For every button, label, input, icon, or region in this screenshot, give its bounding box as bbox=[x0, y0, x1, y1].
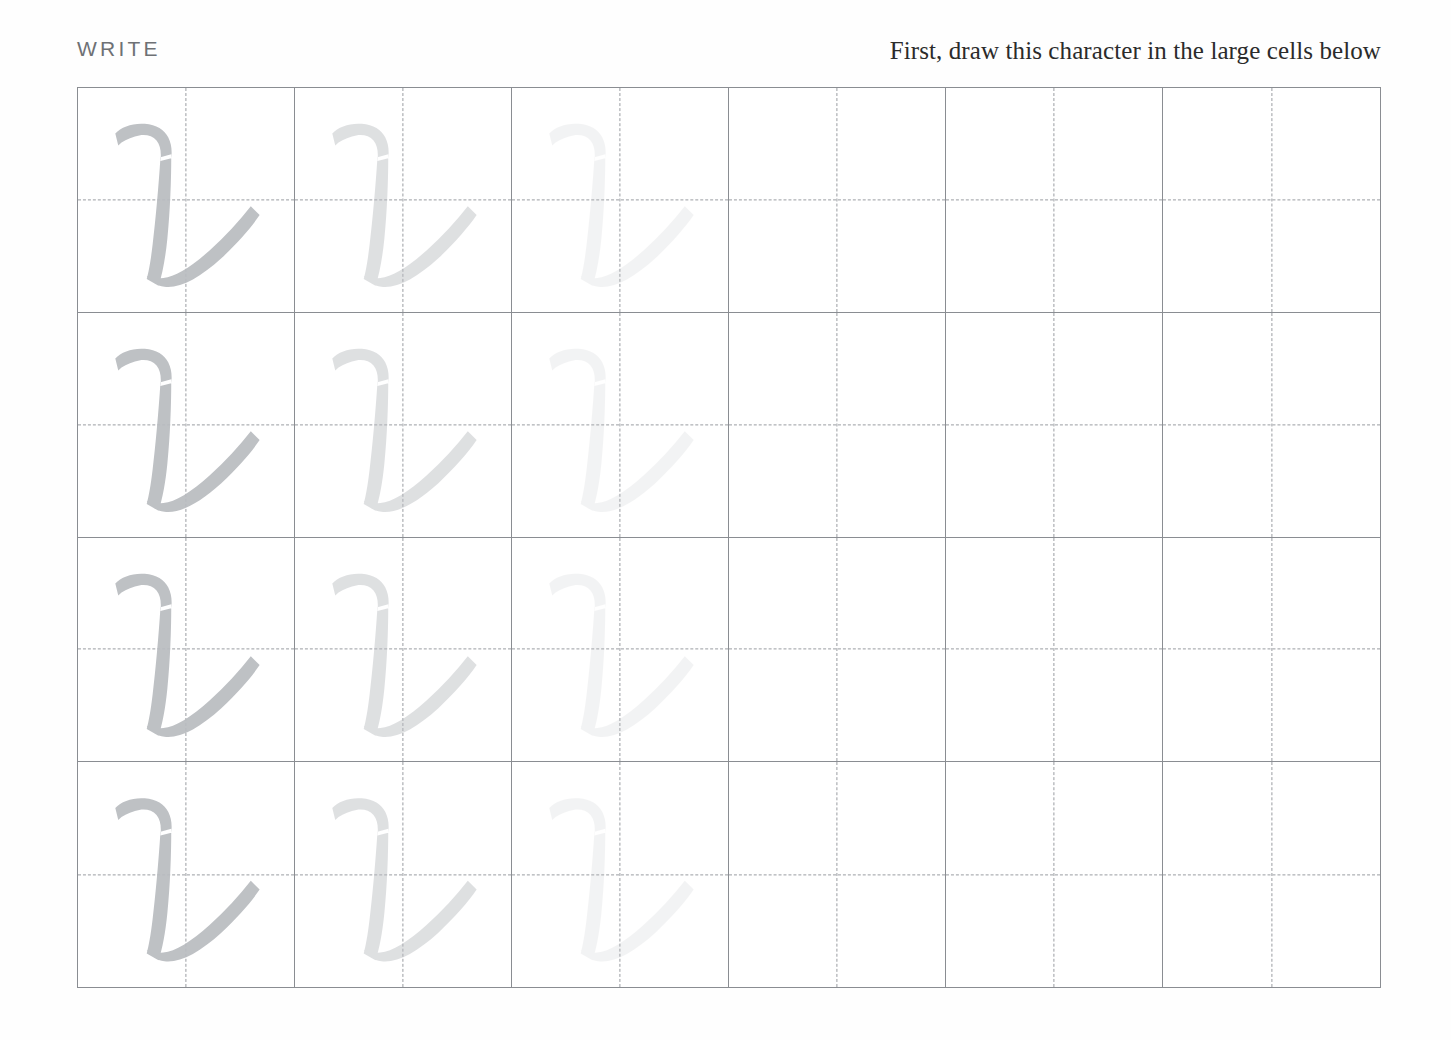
guide-line-horizontal bbox=[512, 874, 728, 875]
guide-line-vertical bbox=[1053, 762, 1054, 987]
guide-line-horizontal bbox=[295, 649, 511, 650]
worksheet-page: WRITE First, draw this character in the … bbox=[0, 0, 1451, 1040]
traced-character-katakana-re bbox=[78, 88, 294, 312]
guide-line-vertical bbox=[1271, 762, 1272, 987]
guide-line-horizontal bbox=[295, 874, 511, 875]
practice-cell-r1-c6[interactable] bbox=[1163, 88, 1380, 313]
guide-line-vertical bbox=[1271, 538, 1272, 762]
traced-character-katakana-re bbox=[78, 762, 294, 987]
guide-line-horizontal bbox=[1163, 649, 1380, 650]
guide-line-horizontal bbox=[78, 649, 294, 650]
guide-line-horizontal bbox=[78, 874, 294, 875]
guide-line-vertical bbox=[836, 313, 837, 537]
traced-character-katakana-re bbox=[295, 762, 511, 987]
practice-cell-r2-c4[interactable] bbox=[729, 313, 946, 538]
practice-cell-r1-c1[interactable] bbox=[78, 88, 295, 313]
guide-line-vertical bbox=[402, 88, 403, 312]
practice-cell-r1-c5[interactable] bbox=[946, 88, 1163, 313]
guide-line-horizontal bbox=[946, 424, 1162, 425]
practice-cell-r2-c3[interactable] bbox=[512, 313, 729, 538]
guide-line-horizontal bbox=[512, 649, 728, 650]
traced-character-katakana-re bbox=[78, 313, 294, 537]
guide-line-vertical bbox=[836, 762, 837, 987]
practice-cell-r2-c1[interactable] bbox=[78, 313, 295, 538]
guide-line-horizontal bbox=[729, 649, 945, 650]
guide-line-vertical bbox=[836, 538, 837, 762]
traced-character-katakana-re bbox=[78, 538, 294, 762]
guide-line-vertical bbox=[836, 88, 837, 312]
practice-cell-r4-c1[interactable] bbox=[78, 762, 295, 987]
practice-cell-r3-c2[interactable] bbox=[295, 538, 512, 763]
guide-line-horizontal bbox=[946, 649, 1162, 650]
guide-line-horizontal bbox=[946, 874, 1162, 875]
practice-cell-r1-c2[interactable] bbox=[295, 88, 512, 313]
guide-line-horizontal bbox=[78, 199, 294, 200]
practice-cell-r1-c3[interactable] bbox=[512, 88, 729, 313]
practice-cell-r3-c4[interactable] bbox=[729, 538, 946, 763]
guide-line-horizontal bbox=[946, 199, 1162, 200]
guide-line-vertical bbox=[185, 762, 186, 987]
practice-cell-r3-c6[interactable] bbox=[1163, 538, 1380, 763]
practice-cell-r3-c3[interactable] bbox=[512, 538, 729, 763]
traced-character-katakana-re bbox=[295, 88, 511, 312]
practice-cell-r2-c6[interactable] bbox=[1163, 313, 1380, 538]
guide-line-horizontal bbox=[729, 199, 945, 200]
guide-line-vertical bbox=[185, 538, 186, 762]
guide-line-horizontal bbox=[1163, 424, 1380, 425]
guide-line-horizontal bbox=[295, 424, 511, 425]
practice-cell-r1-c4[interactable] bbox=[729, 88, 946, 313]
traced-character-katakana-re bbox=[295, 313, 511, 537]
guide-line-vertical bbox=[1053, 313, 1054, 537]
practice-cell-r4-c3[interactable] bbox=[512, 762, 729, 987]
guide-line-horizontal bbox=[729, 424, 945, 425]
guide-line-vertical bbox=[1271, 88, 1272, 312]
traced-character-katakana-re bbox=[512, 538, 728, 762]
guide-line-vertical bbox=[185, 88, 186, 312]
practice-cell-r4-c4[interactable] bbox=[729, 762, 946, 987]
instruction-text: First, draw this character in the large … bbox=[890, 36, 1381, 66]
guide-line-horizontal bbox=[78, 424, 294, 425]
practice-cell-r3-c5[interactable] bbox=[946, 538, 1163, 763]
guide-line-vertical bbox=[1053, 538, 1054, 762]
guide-line-horizontal bbox=[512, 424, 728, 425]
guide-line-vertical bbox=[402, 538, 403, 762]
guide-line-horizontal bbox=[512, 199, 728, 200]
practice-cell-r4-c2[interactable] bbox=[295, 762, 512, 987]
guide-line-horizontal bbox=[295, 199, 511, 200]
guide-line-vertical bbox=[402, 313, 403, 537]
traced-character-katakana-re bbox=[512, 88, 728, 312]
practice-cell-r2-c5[interactable] bbox=[946, 313, 1163, 538]
traced-character-katakana-re bbox=[295, 538, 511, 762]
section-label-write: WRITE bbox=[77, 36, 161, 62]
traced-character-katakana-re bbox=[512, 762, 728, 987]
guide-line-vertical bbox=[185, 313, 186, 537]
worksheet-header: WRITE First, draw this character in the … bbox=[77, 36, 1381, 76]
guide-line-vertical bbox=[619, 88, 620, 312]
practice-cell-r4-c5[interactable] bbox=[946, 762, 1163, 987]
guide-line-horizontal bbox=[1163, 199, 1380, 200]
guide-line-vertical bbox=[619, 538, 620, 762]
guide-line-vertical bbox=[619, 762, 620, 987]
guide-line-horizontal bbox=[1163, 874, 1380, 875]
practice-cell-r2-c2[interactable] bbox=[295, 313, 512, 538]
guide-line-vertical bbox=[1271, 313, 1272, 537]
practice-cell-r3-c1[interactable] bbox=[78, 538, 295, 763]
practice-grid bbox=[77, 87, 1381, 988]
practice-cell-r4-c6[interactable] bbox=[1163, 762, 1380, 987]
guide-line-horizontal bbox=[729, 874, 945, 875]
guide-line-vertical bbox=[619, 313, 620, 537]
traced-character-katakana-re bbox=[512, 313, 728, 537]
guide-line-vertical bbox=[1053, 88, 1054, 312]
guide-line-vertical bbox=[402, 762, 403, 987]
